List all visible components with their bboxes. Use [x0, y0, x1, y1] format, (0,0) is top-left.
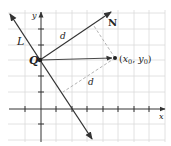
label-d-upper: d — [60, 31, 66, 41]
label-x-axis: x — [159, 112, 164, 121]
label-N: N — [108, 17, 117, 28]
label-Q: Q — [29, 54, 39, 67]
line-L-lower — [40, 60, 92, 139]
label-L: L — [16, 35, 24, 48]
label-d-lower: d — [88, 77, 94, 87]
diagram-canvas: L N Q d d x y (x0, y0) — [0, 0, 171, 146]
grid — [8, 10, 165, 142]
label-y-axis: y — [31, 11, 37, 20]
label-point-p: (x0, y0) — [119, 53, 152, 66]
point-p — [113, 56, 117, 60]
